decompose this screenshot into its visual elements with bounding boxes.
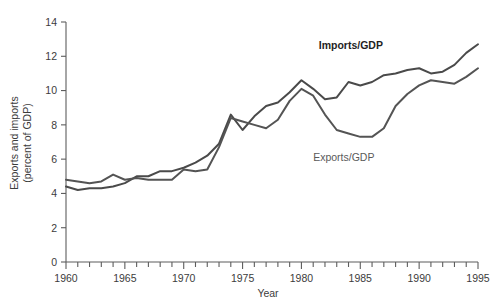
y-axis-title-line1: Exports and imports xyxy=(8,96,20,189)
y-tick-label: 12 xyxy=(45,50,57,62)
x-axis-tick-labels: 19601965197019751980198519901995 xyxy=(54,272,490,284)
x-tick-label: 1980 xyxy=(290,272,314,284)
y-tick-label: 4 xyxy=(51,187,57,199)
annotation-imports-gdp: Imports/GDP xyxy=(319,39,383,51)
y-tick-label: 6 xyxy=(51,153,57,165)
axes xyxy=(66,22,478,262)
x-tick-label: 1970 xyxy=(172,272,196,284)
x-tick-label: 1965 xyxy=(113,272,137,284)
x-axis-title: Year xyxy=(257,287,279,299)
line-chart: 02468101214 1960196519701975198019851990… xyxy=(0,0,504,303)
annotation-exports-gdp: Exports/GDP xyxy=(313,151,374,163)
y-tick-label: 10 xyxy=(45,84,57,96)
data-series xyxy=(66,44,478,190)
y-axis-tick-labels: 02468101214 xyxy=(45,16,57,268)
x-tick-label: 1975 xyxy=(231,272,255,284)
chart-container: 02468101214 1960196519701975198019851990… xyxy=(0,0,504,303)
series-annotations: Imports/GDPExports/GDP xyxy=(313,39,383,162)
x-tick-label: 1960 xyxy=(54,272,78,284)
y-tick-label: 14 xyxy=(45,16,57,28)
y-axis-title-line2: (percent of GDP) xyxy=(21,103,33,182)
series-line-imports-gdp xyxy=(66,44,478,190)
y-tick-label: 2 xyxy=(51,222,57,234)
x-tick-label: 1990 xyxy=(407,272,431,284)
tick-marks xyxy=(61,22,478,269)
x-tick-label: 1985 xyxy=(349,272,373,284)
series-line-exports-gdp xyxy=(66,68,478,183)
y-tick-label: 8 xyxy=(51,119,57,131)
y-tick-label: 0 xyxy=(51,256,57,268)
x-tick-label: 1995 xyxy=(466,272,490,284)
